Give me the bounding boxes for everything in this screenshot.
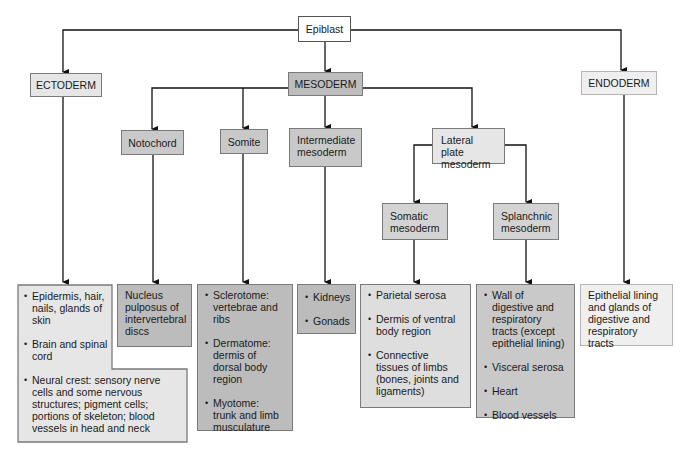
node-label: Lateral plate mesoderm — [441, 134, 491, 170]
node-label: Intermediate mesoderm — [297, 134, 355, 158]
node-label: Splanchnic mesoderm — [501, 210, 552, 234]
derivative-item: Gonads — [305, 315, 348, 327]
node-label: MESODERM — [295, 78, 357, 90]
derivative-item: Myotome: trunk and limb musculature — [205, 397, 285, 433]
node-epiblast: Epiblast — [298, 16, 351, 42]
node-ectoderm: ECTODERM — [30, 73, 102, 97]
somite-derivatives: Sclerotome: vertebrae and ribs Dermatome… — [197, 284, 293, 431]
derivative-item: Kidneys — [305, 291, 348, 303]
node-label: ECTODERM — [36, 79, 96, 91]
derivative-item: Blood vessels — [484, 409, 567, 421]
node-intermediate-mesoderm: Intermediate mesoderm — [289, 128, 362, 167]
node-splanchnic-mesoderm: Splanchnic mesoderm — [493, 203, 559, 240]
node-label: Notochord — [128, 137, 176, 149]
node-label: Somatic mesoderm — [390, 210, 440, 234]
derivative-text: Epithelial lining and glands of digestiv… — [588, 289, 658, 349]
intermediate-derivatives: Kidneys Gonads — [297, 284, 356, 334]
node-label: ENDODERM — [588, 77, 649, 89]
splanchnic-derivatives: Wall of digestive and respiratory tracts… — [476, 284, 575, 418]
node-label: Somite — [228, 136, 261, 148]
node-notochord: Notochord — [121, 130, 184, 155]
node-somatic-mesoderm: Somatic mesoderm — [382, 203, 448, 240]
node-somite: Somite — [220, 129, 268, 154]
derivative-item: Brain and spinal cord — [24, 338, 112, 362]
node-mesoderm: MESODERM — [288, 72, 363, 96]
endoderm-derivatives: Epithelial lining and glands of digestiv… — [580, 284, 673, 346]
node-lateral-plate-mesoderm: Lateral plate mesoderm — [432, 128, 505, 164]
node-label: Epiblast — [306, 23, 343, 35]
derivative-item: Neural crest: sensory nerve cells and so… — [24, 374, 184, 434]
derivative-item: Dermis of ventral body region — [368, 313, 463, 337]
notochord-derivatives: Nucleus pulposus of intervertebral discs — [117, 284, 192, 347]
derivative-item: Sclerotome: vertebrae and ribs — [205, 289, 285, 325]
derivative-text: Nucleus pulposus of intervertebral discs — [125, 289, 186, 337]
somatic-derivatives: Parietal serosa Dermis of ventral body r… — [360, 284, 471, 408]
derivative-item: Heart — [484, 385, 567, 397]
derivative-item: Visceral serosa — [484, 361, 567, 373]
derivative-item: Wall of digestive and respiratory tracts… — [484, 289, 567, 349]
derivative-item: Epidermis, hair, nails, glands of skin — [24, 290, 112, 326]
node-endoderm: ENDODERM — [581, 71, 657, 95]
derivative-item: Parietal serosa — [368, 289, 463, 301]
derivative-item: Connective tissues of limbs (bones, join… — [368, 349, 463, 397]
derivative-item: Dermatome: dermis of dorsal body region — [205, 337, 285, 385]
